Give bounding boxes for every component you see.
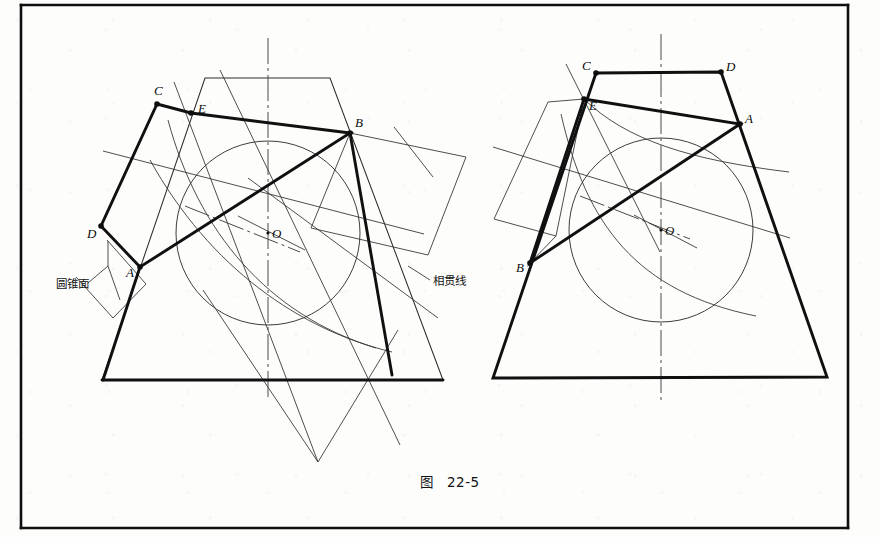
- annotation-label-intersection-curve: 相贯线: [433, 274, 467, 288]
- vertex-dot-E-right: [581, 96, 587, 102]
- right-projection-view: C D E A B O: [493, 34, 827, 404]
- vertex-dot-A-right: [737, 121, 743, 127]
- annotation-label-cone-surface: 圆锥面: [56, 277, 89, 291]
- right-label-D: D: [725, 59, 736, 74]
- left-free-leader-stub: [394, 127, 433, 177]
- left-intersection-arc-2: [150, 160, 392, 352]
- left-aux-diagonal: [248, 178, 438, 318]
- vertex-dot-A: [137, 264, 143, 270]
- vertex-dot-D-right: [718, 69, 724, 75]
- right-label-B: B: [516, 260, 524, 275]
- vertex-dot-D: [98, 223, 104, 229]
- annotation-cone-surface: 圆锥面: [56, 241, 120, 300]
- vertex-dot-B: [347, 130, 353, 136]
- technical-drawing-canvas: C E B D A O 圆锥面 相贯线: [0, 0, 880, 537]
- right-label-A: A: [744, 111, 753, 126]
- left-label-E: E: [197, 101, 206, 116]
- right-label-C: C: [582, 58, 591, 73]
- annotation-intersection-curve: 相贯线: [408, 266, 467, 288]
- left-label-D: D: [86, 226, 97, 241]
- right-section-polygon: [530, 99, 740, 263]
- left-label-A: A: [125, 265, 134, 280]
- left-cone-surface-quad: [70, 226, 146, 318]
- right-label-E: E: [588, 98, 597, 113]
- left-vertex-dots: [98, 101, 353, 270]
- left-oblique-auxiliary: [103, 151, 424, 234]
- left-cutting-plane-quad: [311, 133, 466, 255]
- scanned-page: C E B D A O 圆锥面 相贯线: [0, 0, 880, 537]
- vertex-dot-C: [154, 101, 160, 107]
- left-label-O: O: [272, 226, 282, 241]
- right-generatrix-left: [566, 64, 660, 252]
- left-oblique-centerline: [185, 206, 300, 252]
- vertex-dot-O-right: [659, 228, 662, 231]
- left-projection-view: C E B D A O: [70, 38, 466, 462]
- figure-caption: 图 22-5: [420, 474, 480, 490]
- vertex-dot-E: [188, 110, 194, 116]
- vertex-dot-C-right: [593, 70, 599, 76]
- vertex-dot-B-right: [527, 260, 533, 266]
- caption-number: 22-5: [447, 474, 480, 490]
- left-label-B: B: [355, 115, 363, 130]
- caption-prefix: 图: [420, 474, 434, 490]
- right-label-O: O: [665, 223, 675, 238]
- left-label-C: C: [154, 83, 163, 98]
- vertex-dot-O: [266, 231, 269, 234]
- left-generatrix-left: [174, 82, 318, 462]
